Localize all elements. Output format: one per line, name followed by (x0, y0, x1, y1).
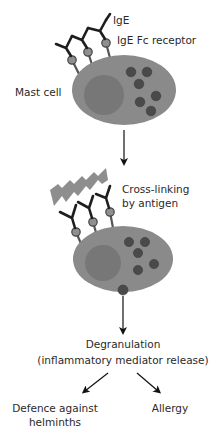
nucleus-2 (85, 245, 121, 281)
label-ige: IgE (113, 14, 129, 26)
arrow-to-allergy (137, 373, 158, 391)
label-helminths: helminths (29, 416, 81, 428)
label-inflammatory-mediator-release: (inflammatory mediator release) (37, 354, 208, 366)
released-granule (118, 285, 128, 295)
ige-antibodies (56, 14, 110, 56)
arrow-to-defence (85, 373, 108, 391)
label-cross-linking: Cross-linking (122, 183, 189, 195)
nucleus (84, 75, 124, 115)
label-mast-cell: Mast cell (15, 86, 62, 98)
antigen (50, 168, 108, 206)
label-by-antigen: by antigen (122, 197, 178, 209)
label-ige-fc-receptor: IgE Fc receptor (117, 34, 197, 46)
label-defence-against: Defence against (12, 402, 98, 414)
resting-mast-cell: IgE IgE Fc receptor Mast cell (15, 14, 197, 125)
mast-cell-activation-diagram: IgE IgE Fc receptor Mast cell (0, 0, 214, 435)
label-degranulation: Degranulation (86, 338, 161, 350)
activated-mast-cell: Cross-linking by antigen (50, 168, 189, 295)
label-allergy: Allergy (152, 402, 189, 414)
